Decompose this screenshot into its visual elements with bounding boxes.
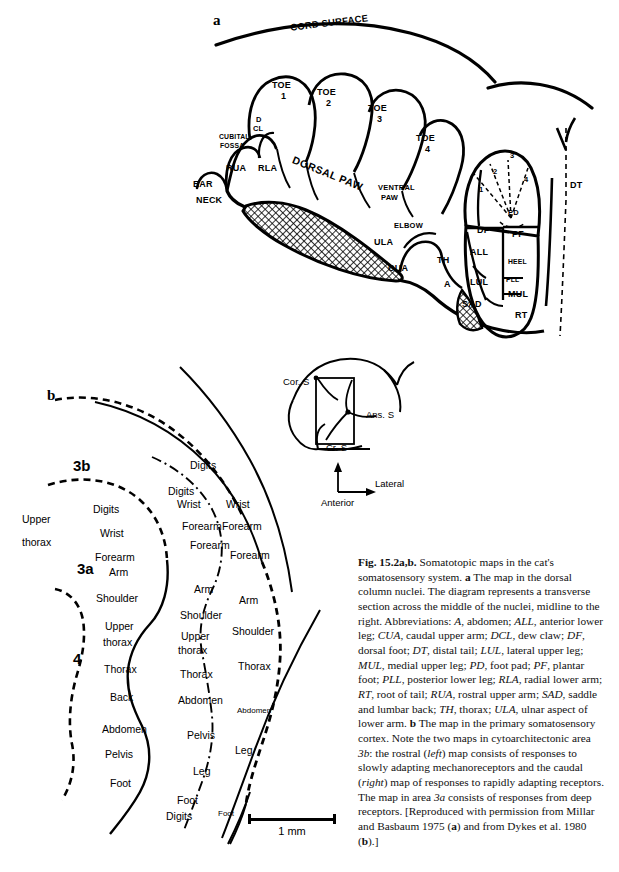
- paw-label: PAW: [381, 194, 398, 202]
- outer-thorax-label: thorax: [22, 536, 51, 548]
- gracile-digit1: 1: [479, 186, 483, 194]
- sad-label: SAD: [462, 300, 482, 309]
- label-3b-r-thorax2: thorax: [178, 644, 207, 656]
- cl-label: CL: [253, 125, 263, 133]
- lul-label: LUL: [470, 278, 488, 287]
- caption-body-4: : the rostral (: [369, 747, 427, 759]
- label-4-abdomen: Abdomen: [102, 723, 147, 735]
- fossa-label: FOSSA: [220, 142, 244, 149]
- figure-root: a CORD SURFACE TOE 1 TOE 2 TOE 3 TOE 4 D…: [0, 0, 619, 872]
- ula-label: ULA: [374, 238, 393, 247]
- anterior-label: Anterior: [321, 497, 354, 508]
- scale-bar-label: 1 mm: [248, 825, 336, 837]
- label-3b-c-thorax: Thorax: [238, 660, 271, 672]
- toe2-label: TOE: [317, 88, 336, 97]
- label-3b-c-foot: Foot: [218, 809, 234, 818]
- df-label: DF: [477, 226, 489, 235]
- rla-label: RLA: [258, 164, 277, 173]
- label-4-thorax2: thorax: [103, 636, 132, 648]
- label-3a-wrist: Wrist: [100, 527, 124, 539]
- label-3b-c-wrist: Wrist: [226, 498, 250, 510]
- elbow-label: ELBOW: [394, 222, 423, 230]
- rua-label: RUA: [226, 164, 246, 173]
- label-3b-c-shoulder: Shoulder: [232, 625, 274, 637]
- gracile-digit2: 2: [493, 168, 497, 176]
- ear-label: EAR: [193, 180, 213, 189]
- label-3b-c-forearm: Forearm: [222, 520, 262, 532]
- label-4-back: Back: [110, 691, 133, 703]
- figure-caption: Fig. 15.2a,b. Somatotopic maps in the ca…: [358, 555, 606, 848]
- label-3b-r-leg: Leg: [193, 765, 211, 777]
- caption-left-italic: left: [427, 747, 441, 759]
- scale-bar-tick-right: [333, 814, 336, 824]
- toe3-label: TOE: [368, 104, 387, 113]
- label-3b-r-pelvis: Pelvis: [187, 729, 215, 741]
- cor-s-label: Cor. S: [283, 376, 309, 387]
- label-3b-r-abdomen: Abdomen: [178, 694, 223, 706]
- label-3a-arm: Arm: [109, 566, 128, 578]
- label-3b-r-digits2: Digits: [168, 485, 194, 497]
- label-3a-forearm: Forearm: [95, 551, 135, 563]
- label-3b-r-shoulder: Shoulder: [180, 609, 222, 621]
- label-3b-c-arm: Arm: [239, 594, 258, 606]
- label-3b-r-digits: Digits: [190, 459, 216, 471]
- outer-upper-label: Upper: [22, 513, 51, 525]
- gracile-digit4: 4: [524, 176, 528, 184]
- label-4-thorax: Thorax: [104, 663, 137, 675]
- rt-label: RT: [515, 311, 527, 320]
- th-label: TH: [437, 256, 449, 265]
- caption-body-9: ).]: [368, 835, 378, 847]
- toe1-label: TOE: [272, 81, 291, 90]
- caption-figure-number: Fig. 15.2a,b.: [358, 556, 417, 568]
- label-3b-r-thorax: Thorax: [180, 668, 213, 680]
- label-3a-digits: Digits: [93, 503, 119, 515]
- ans-s-label: Ans. S: [366, 409, 394, 420]
- label-3b-r-digits3: Digits: [166, 810, 192, 822]
- neck-label: NECK: [196, 196, 222, 205]
- toe4-label: TOE: [416, 134, 435, 143]
- area-3b-label: 3b: [73, 457, 91, 474]
- toe1-number: 1: [281, 92, 286, 101]
- pf-label: PF: [512, 230, 524, 239]
- label-4-pelvis: Pelvis: [105, 748, 133, 760]
- scale-bar-tick-left: [248, 814, 251, 824]
- panel-b-letter: b: [47, 387, 55, 404]
- toe4-number: 4: [425, 145, 430, 154]
- a-region-label: A: [444, 280, 451, 289]
- panel-a-letter: a: [213, 12, 221, 29]
- area-3a-label: 3a: [77, 560, 94, 577]
- label-3b-c-leg: Leg: [235, 744, 253, 756]
- caption-right-italic: right: [362, 776, 384, 788]
- label-4-foot: Foot: [110, 777, 131, 789]
- label-3b-r-upper: Upper: [181, 630, 210, 642]
- label-4-upper: Upper: [105, 620, 134, 632]
- gracile-digit3: 3: [510, 152, 514, 160]
- d-label: D: [256, 116, 262, 124]
- label-3b-c-abdomen: Abdomen: [237, 706, 271, 715]
- label-3b-r-wrist: Wrist: [177, 498, 201, 510]
- label-3b-c-forearm2: Forearm: [230, 549, 270, 561]
- cr-s-label: Cr. S: [326, 442, 347, 453]
- caption-area-3b: 3b: [358, 747, 369, 759]
- all-label: ALL: [470, 248, 488, 257]
- label-3b-r-foot: Foot: [177, 794, 198, 806]
- caption-abbreviations: A, abdomen; ALL, anterior lower leg; CUA…: [358, 615, 603, 730]
- toe2-number: 2: [326, 99, 331, 108]
- mul-label: MUL: [508, 290, 528, 299]
- dt-label: DT: [570, 181, 582, 190]
- scale-bar-line: [248, 818, 336, 821]
- pll-label: PLL: [506, 276, 519, 283]
- label-3b-r-forearm2: Forearm: [190, 539, 230, 551]
- label-3b-r-arm: Arm: [194, 583, 213, 595]
- pd-label: PD: [508, 209, 519, 217]
- area-4-label: 4: [73, 650, 81, 667]
- toe3-number: 3: [377, 115, 382, 124]
- label-3a-shoulder: Shoulder: [96, 592, 138, 604]
- cua-label: CUA: [388, 264, 408, 273]
- label-3b-r-forearm: Forearm: [182, 520, 222, 532]
- caption-area-3a: 3a: [434, 791, 445, 803]
- lateral-label: Lateral: [375, 478, 404, 489]
- cubital-label: CUBITAL: [219, 133, 250, 140]
- heel-label: HEEL: [508, 258, 527, 265]
- ventral-label: VENTRAL: [378, 184, 415, 192]
